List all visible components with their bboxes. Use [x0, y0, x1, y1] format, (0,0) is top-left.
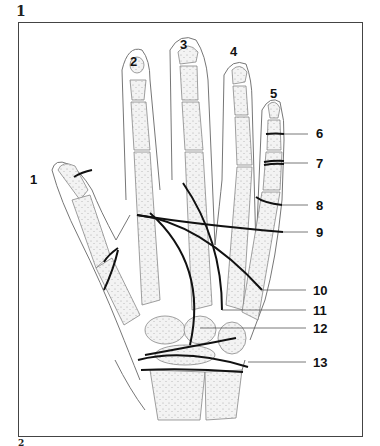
line-label-13: 13	[313, 356, 327, 369]
line-label-12: 12	[313, 322, 327, 335]
line-label-11: 11	[313, 304, 327, 317]
line-label-7: 7	[316, 157, 323, 170]
bones	[58, 46, 282, 420]
finger-label-1: 1	[30, 173, 37, 186]
line-label-10: 10	[313, 284, 327, 297]
hand-skeleton-illustration	[0, 0, 380, 446]
finger-label-2: 2	[130, 55, 137, 68]
line-label-8: 8	[316, 199, 323, 212]
line-label-9: 9	[316, 226, 323, 239]
finger-label-3: 3	[180, 38, 187, 51]
line-label-6: 6	[316, 127, 323, 140]
finger-label-4: 4	[230, 45, 237, 58]
finger-label-5: 5	[270, 87, 277, 100]
